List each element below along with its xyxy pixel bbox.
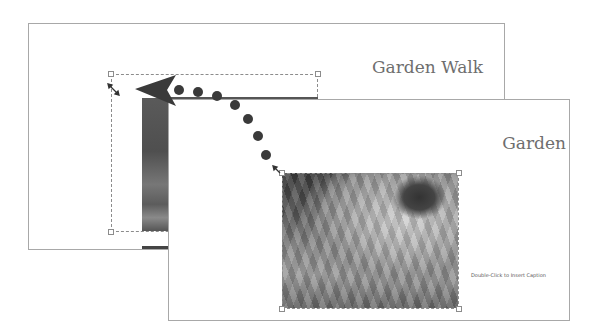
- arrow-head-icon: [135, 75, 176, 106]
- resize-cursor-icon: [108, 84, 119, 95]
- resize-cursor-icon: [273, 166, 280, 173]
- dotted-path-icon: [174, 85, 271, 160]
- move-arrow-overlay: [0, 0, 601, 332]
